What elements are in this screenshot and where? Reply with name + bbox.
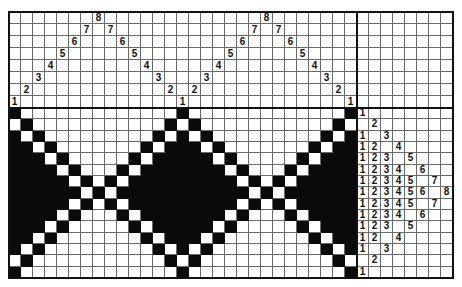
threading-cell [69,84,81,96]
tieup-cell [357,60,369,72]
drawdown-cell [129,221,141,232]
drawdown-cell [285,176,297,187]
threading-cell [333,36,345,48]
drawdown-cell [33,221,45,232]
drawdown-cell [273,244,285,255]
drawdown-cell [321,176,333,187]
threading-cell [297,72,309,84]
drawdown-cell [201,267,213,278]
drawdown-cell [249,187,261,198]
tieup-cell [441,12,453,24]
drawdown-cell [285,267,297,278]
drawdown-cell [105,142,117,153]
drawdown-cell [261,187,273,198]
drawdown-cell [321,142,333,153]
drawdown-cell [333,108,345,119]
drawdown-cell [81,176,93,187]
drawdown-cell [165,131,177,142]
threading-cell [165,72,177,84]
treadling-cell: 3 [381,221,393,232]
drawdown-cell [69,244,81,255]
threading-cell [309,48,321,60]
drawdown-cell [45,221,57,232]
drawdown-cell [201,142,213,153]
treadling-cell: 4 [393,233,405,244]
drawdown-cell [225,165,237,176]
drawdown-cell [93,187,105,198]
drawdown-cell [45,153,57,164]
drawdown-cell [69,199,81,210]
threading-cell [237,12,249,24]
threading-cell [285,48,297,60]
drawdown-cell [129,210,141,221]
threading-cell [249,36,261,48]
drawdown-cell [213,108,225,119]
threading-cell [177,72,189,84]
drawdown-cell [57,267,69,278]
drawdown-cell [81,267,93,278]
drawdown-cell [297,199,309,210]
drawdown-cell [213,210,225,221]
threading-cell [225,84,237,96]
treadling-cell: 1 [357,108,369,119]
threading-cell [321,84,333,96]
drawdown-cell [117,255,129,266]
drawdown-cell [297,267,309,278]
drawdown-cell [21,165,33,176]
drawdown-cell [141,119,153,130]
tieup-cell [405,60,417,72]
drawdown-cell [213,165,225,176]
drawdown-cell [189,199,201,210]
drawdown-cell [33,199,45,210]
tieup-cell [393,12,405,24]
treadling-cell [417,108,429,119]
drawdown-cell [21,210,33,221]
threading-cell [9,24,21,36]
treadling-cell [405,255,417,266]
tieup-cell [429,72,441,84]
treadling-cell [441,233,453,244]
treadling-cell [441,199,453,210]
threading-cell [129,24,141,36]
treadling-cell [429,244,441,255]
threading-cell: 3 [153,72,165,84]
threading-cell [333,24,345,36]
threading-cell [285,24,297,36]
drawdown-cell [117,153,129,164]
drawdown-cell [81,165,93,176]
drawdown-cell [261,142,273,153]
threading-cell [33,24,45,36]
threading-cell [177,24,189,36]
drawdown-cell [153,119,165,130]
tieup-cell [441,72,453,84]
drawdown-cell [165,210,177,221]
drawdown-cell [81,108,93,119]
drawdown-cell [285,199,297,210]
treadling-cell [393,267,405,278]
threading-cell [165,48,177,60]
drawdown-cell [309,142,321,153]
threading-cell [285,84,297,96]
threading-cell: 4 [45,60,57,72]
threading-cell [141,48,153,60]
drawdown-cell [213,199,225,210]
drawdown-cell [333,176,345,187]
drawdown-cell [309,210,321,221]
treadling-cell [441,119,453,130]
drawdown-cell [237,255,249,266]
drawdown-cell [177,199,189,210]
drawdown-cell [57,187,69,198]
drawdown-cell [153,255,165,266]
drawdown-cell [273,233,285,244]
threading-cell [69,24,81,36]
threading-cell [273,72,285,84]
threading-cell [69,12,81,24]
drawdown-cell [93,233,105,244]
drawdown-cell [237,131,249,142]
threading-cell [201,84,213,96]
drawdown-cell [45,210,57,221]
threading-cell [105,36,117,48]
tieup-cell [393,48,405,60]
drawdown-cell [273,119,285,130]
drawdown-cell [45,131,57,142]
